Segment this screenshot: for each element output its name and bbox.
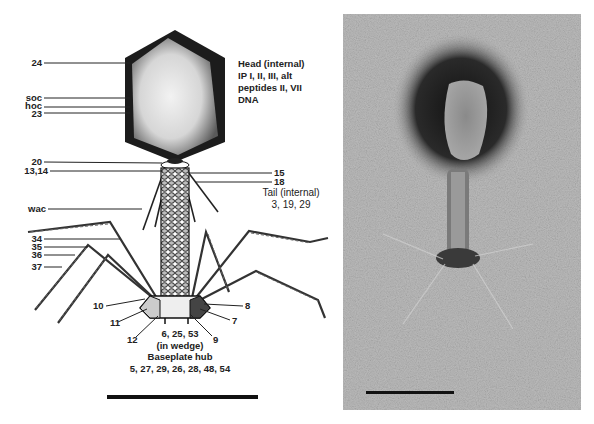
electron-micrograph-panel — [343, 14, 581, 410]
label-18: 18 — [274, 177, 285, 187]
head-internal-label: Head (internal) IP I, II, III, alt pepti… — [238, 58, 305, 106]
micrograph-scale-bar — [366, 391, 454, 394]
head-label-line: peptides II, VII — [238, 82, 305, 94]
baseplate-hub-label: Baseplate hub 5, 27, 29, 26, 28, 48, 54 — [100, 351, 260, 375]
diagram-scale-bar — [107, 395, 258, 399]
label-13-14: 13,14 — [10, 166, 48, 176]
label-23: 23 — [14, 109, 42, 119]
micrograph-capsid — [444, 80, 487, 160]
head-label-line: DNA — [238, 94, 305, 106]
phage-diagram-panel: 24 soc hoc 23 20 13,14 wac 34 35 36 37 1… — [0, 0, 340, 424]
label-11: 11 — [110, 318, 120, 328]
hub-label-line: 5, 27, 29, 26, 28, 48, 54 — [100, 363, 260, 375]
hub-label-line: Baseplate hub — [100, 351, 260, 363]
wedge-label: 6, 25, 53 (in wedge) — [120, 328, 240, 352]
baseplate — [140, 296, 210, 324]
label-wac: wac — [10, 204, 46, 214]
label-36: 36 — [14, 250, 42, 260]
label-7: 7 — [232, 316, 237, 326]
neck-collar — [161, 158, 189, 169]
head-label-line: IP I, II, III, alt — [238, 70, 305, 82]
label-37: 37 — [14, 262, 42, 272]
tail-label-line: 3, 19, 29 — [250, 199, 332, 211]
wedge-label-line: 6, 25, 53 — [120, 328, 240, 340]
capsid-head — [125, 30, 225, 162]
tail-label-line: Tail (internal) — [250, 187, 332, 199]
head-label-line: Head (internal) — [238, 58, 305, 70]
tail-sheath — [161, 168, 189, 298]
label-10: 10 — [93, 301, 104, 311]
tail-fibers-right — [192, 231, 328, 318]
tail-fibers-right-distal — [208, 233, 318, 301]
tail-internal-label: Tail (internal) 3, 19, 29 — [250, 187, 332, 211]
label-8: 8 — [245, 301, 250, 311]
label-24: 24 — [20, 58, 42, 68]
micrograph-image — [343, 14, 581, 410]
